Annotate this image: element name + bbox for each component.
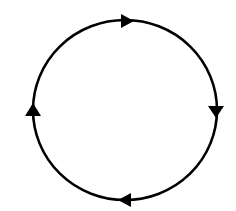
cycle-diagram [0, 0, 236, 211]
arrow-left-icon [118, 193, 131, 207]
arrow-up-icon [25, 103, 41, 116]
cycle-circle [33, 20, 217, 200]
arrow-down-icon [208, 106, 224, 118]
arrow-right-icon [121, 14, 134, 28]
cycle-diagram-canvas [0, 0, 236, 211]
